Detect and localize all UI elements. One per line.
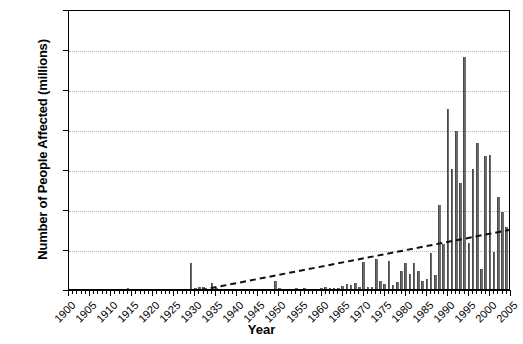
x-tick-mark (472, 290, 473, 294)
gridline (69, 51, 509, 52)
x-tick-mark (417, 290, 418, 294)
bar (215, 288, 218, 289)
bar (320, 288, 323, 289)
x-tick-mark (203, 290, 204, 294)
bar (472, 169, 475, 289)
x-tick-mark (224, 290, 225, 294)
bar (350, 285, 353, 289)
bar (413, 263, 416, 289)
x-tick-mark (123, 290, 124, 294)
x-tick-mark (177, 290, 178, 294)
bar (392, 285, 395, 289)
x-tick-mark (304, 290, 305, 294)
x-tick-mark (451, 290, 452, 294)
x-tick-mark (392, 290, 393, 294)
x-tick-mark (89, 290, 90, 296)
x-tick-mark (384, 290, 385, 296)
x-tick-mark (283, 290, 284, 294)
bar (354, 283, 357, 289)
bar (278, 288, 281, 289)
bar (190, 263, 193, 289)
x-axis-title: Year (0, 322, 523, 337)
x-tick-mark (502, 290, 503, 294)
x-tick-mark (198, 290, 199, 294)
x-tick-mark (455, 290, 456, 294)
x-tick-mark (316, 290, 317, 294)
bar (127, 288, 130, 289)
bar (476, 143, 479, 289)
x-tick-mark (190, 290, 191, 294)
x-tick-mark (257, 290, 258, 296)
bar (324, 287, 327, 289)
x-tick-mark (274, 290, 275, 294)
x-tick-mark (337, 290, 338, 294)
x-tick-mark (493, 290, 494, 294)
x-tick-mark (426, 290, 427, 296)
x-tick-mark (93, 290, 94, 294)
x-tick-mark (169, 290, 170, 294)
bar (501, 212, 504, 289)
x-tick-mark (97, 290, 98, 294)
x-tick-mark (253, 290, 254, 294)
trendline-segment (191, 229, 510, 290)
bar (274, 281, 277, 289)
bar (400, 271, 403, 289)
x-tick-mark (131, 290, 132, 296)
x-tick-mark (228, 290, 229, 294)
bar (430, 253, 433, 289)
x-tick-mark (186, 290, 187, 294)
bar (396, 282, 399, 289)
x-tick-mark (81, 290, 82, 294)
x-tick-mark (350, 290, 351, 294)
bar (451, 169, 454, 289)
x-tick-mark (375, 290, 376, 294)
x-tick-mark (413, 290, 414, 294)
x-tick-mark (215, 290, 216, 296)
x-tick-mark (278, 290, 279, 296)
x-tick-mark (464, 290, 465, 294)
bar (388, 261, 391, 289)
x-tick-mark (291, 290, 292, 294)
x-tick-mark (135, 290, 136, 294)
x-tick-mark (173, 290, 174, 296)
x-tick-mark (354, 290, 355, 294)
x-tick-mark (232, 290, 233, 294)
bar (383, 284, 386, 289)
x-tick-mark (468, 290, 469, 296)
x-tick-mark (110, 290, 111, 296)
x-tick-mark (312, 290, 313, 294)
x-tick-mark (148, 290, 149, 294)
bar (493, 252, 496, 289)
x-tick-mark (287, 290, 288, 294)
x-tick-mark (102, 290, 103, 294)
x-tick-mark (481, 290, 482, 294)
x-tick-mark (114, 290, 115, 294)
x-tick-mark (396, 290, 397, 294)
bar (480, 269, 483, 289)
x-tick-mark (447, 290, 448, 296)
x-axis-line (68, 290, 510, 291)
x-tick-mark (497, 290, 498, 294)
x-tick-mark (156, 290, 157, 294)
x-tick-mark (194, 290, 195, 296)
bar (505, 227, 508, 289)
x-tick-mark (295, 290, 296, 294)
x-tick-mark (333, 290, 334, 294)
bar (426, 279, 429, 289)
x-tick-mark (459, 290, 460, 294)
x-tick-mark (422, 290, 423, 294)
x-tick-mark (72, 290, 73, 294)
bar (455, 131, 458, 289)
x-tick-mark (182, 290, 183, 294)
bar (337, 288, 340, 289)
bar (379, 281, 382, 289)
bar (434, 275, 437, 289)
bar (333, 288, 336, 289)
x-tick-mark (380, 290, 381, 294)
x-tick-mark (489, 290, 490, 296)
x-tick-mark (262, 290, 263, 294)
bar (375, 259, 378, 289)
x-tick-mark (270, 290, 271, 294)
x-tick-mark (443, 290, 444, 294)
bar (358, 287, 361, 289)
